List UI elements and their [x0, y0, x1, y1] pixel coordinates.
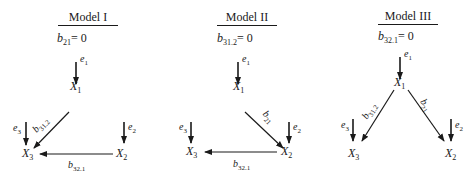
error-label-e3: e3: [179, 121, 187, 137]
node-x3: X3: [186, 144, 197, 163]
node-x2: X2: [281, 144, 292, 163]
node-x2: X2: [116, 146, 127, 165]
error-label-e3: e3: [13, 122, 21, 138]
node-x3: X3: [348, 146, 359, 165]
node-x1: X1: [70, 79, 81, 98]
error-label-e1: e1: [404, 48, 412, 64]
node-x2: X2: [445, 146, 456, 165]
model-title: Model II: [217, 10, 277, 26]
error-label-e1: e1: [80, 53, 88, 69]
error-label-e2: e2: [128, 121, 136, 137]
path-label-b32-1: b32.1: [233, 158, 250, 174]
model-constraint: b32.1= 0: [378, 29, 414, 48]
model-title: Model III: [378, 9, 438, 25]
model-constraint: b31.2= 0: [217, 31, 253, 50]
error-label-e2: e2: [455, 119, 463, 135]
model-constraint: b21= 0: [57, 31, 87, 50]
error-label-e1: e1: [242, 53, 250, 69]
node-x1: X1: [233, 79, 244, 98]
model-title: Model I: [58, 10, 118, 26]
error-label-e3: e3: [341, 119, 349, 135]
node-x3: X3: [22, 146, 33, 165]
error-label-e2: e2: [293, 121, 301, 137]
node-x1: X1: [394, 75, 405, 94]
path-label-b32-1: b32.1: [68, 159, 85, 175]
